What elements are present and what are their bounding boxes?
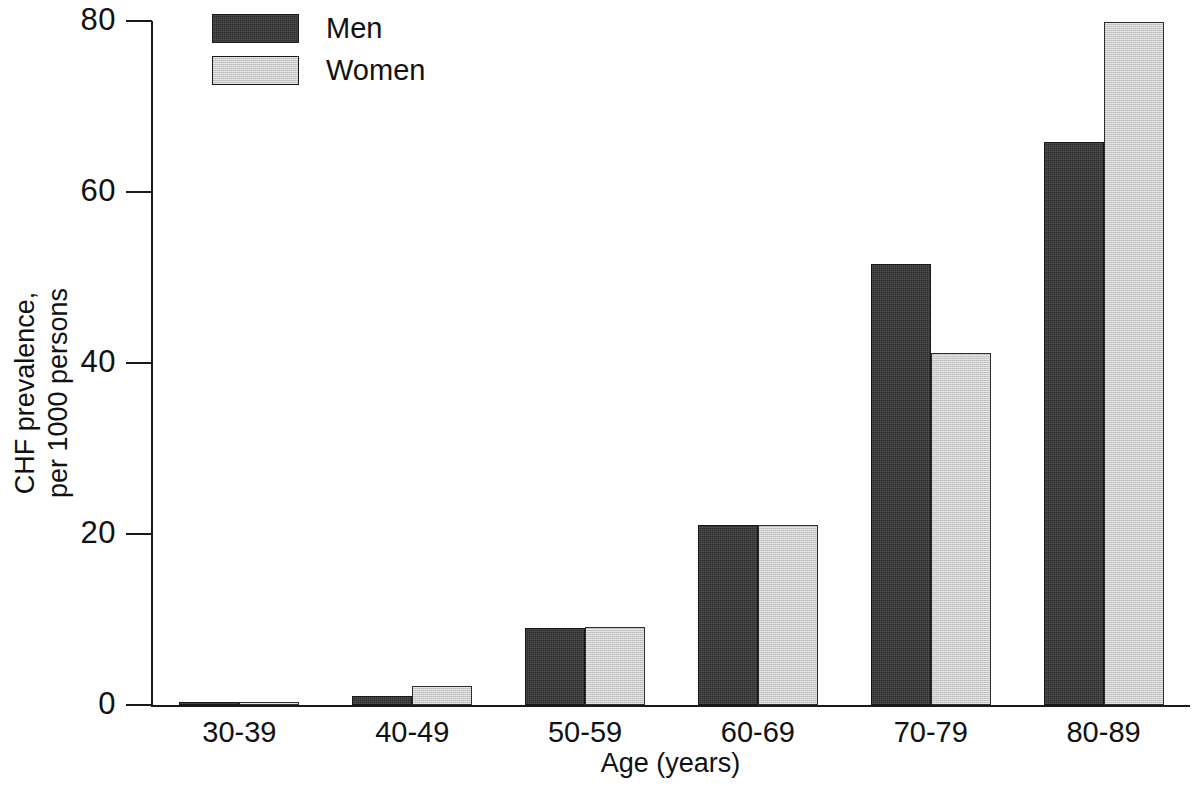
bar-men-50-59 xyxy=(525,628,585,705)
y-axis-tick-label: 0 xyxy=(0,688,116,719)
x-axis-tick-label: 70-79 xyxy=(851,716,1011,748)
x-axis-line xyxy=(151,705,1190,707)
y-axis-tick xyxy=(126,533,152,535)
y-axis-tick xyxy=(126,191,152,193)
bar-women-60-69 xyxy=(758,525,818,705)
y-axis-tick-label: 80 xyxy=(0,4,116,35)
bar-women-40-49 xyxy=(412,686,472,705)
bar-men-60-69 xyxy=(698,525,758,705)
y-axis-title: CHF prevalence, per 1000 persons xyxy=(9,163,75,623)
x-axis-tick-label: 50-59 xyxy=(505,716,665,748)
plot-area xyxy=(153,21,1190,705)
bar-women-30-39 xyxy=(239,702,299,705)
x-axis-tick-label: 40-49 xyxy=(332,716,492,748)
x-axis-title: Age (years) xyxy=(151,748,1190,778)
bar-women-50-59 xyxy=(585,627,645,705)
bar-women-80-89 xyxy=(1104,22,1164,705)
y-axis-tick xyxy=(126,704,152,706)
x-axis-tick-label: 30-39 xyxy=(159,716,319,748)
bar-men-70-79 xyxy=(871,264,931,705)
x-axis-tick-label: 80-89 xyxy=(1024,716,1184,748)
bar-women-70-79 xyxy=(931,353,991,705)
y-axis-tick xyxy=(126,362,152,364)
bar-chart: 020406080 CHF prevalence, per 1000 perso… xyxy=(0,0,1198,786)
bar-men-30-39 xyxy=(179,702,239,705)
bar-men-40-49 xyxy=(352,696,412,705)
bar-men-80-89 xyxy=(1044,142,1104,705)
x-axis-tick-label: 60-69 xyxy=(678,716,838,748)
y-axis-tick xyxy=(126,20,152,22)
